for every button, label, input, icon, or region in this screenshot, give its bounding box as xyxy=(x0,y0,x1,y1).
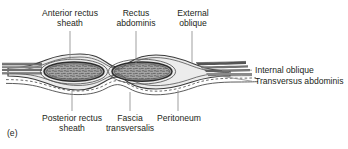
panel-id: (e) xyxy=(7,128,18,138)
label-rectus-abdominis-line2: abdominis xyxy=(106,18,166,28)
label-transversus-abdominis-line1: Transversus abdominis xyxy=(255,76,344,86)
label-peritoneum-line1: Peritoneum xyxy=(151,113,207,123)
label-transversus-abdominis: Transversus abdominis xyxy=(255,76,344,86)
label-rectus-abdominis: Rectus abdominis xyxy=(106,8,166,29)
label-internal-oblique-line1: Internal oblique xyxy=(255,65,314,75)
label-external-oblique: External oblique xyxy=(166,8,220,29)
label-fascia-transversalis-line2: transversalis xyxy=(101,123,159,133)
rectus-abdominis-left xyxy=(40,59,107,84)
label-peritoneum: Peritoneum xyxy=(151,113,207,123)
label-rectus-abdominis-line1: Rectus xyxy=(106,8,166,18)
label-external-oblique-line2: oblique xyxy=(166,18,220,28)
label-internal-oblique: Internal oblique xyxy=(255,65,314,75)
label-external-oblique-line1: External xyxy=(166,8,220,18)
rectus-abdominis-right xyxy=(108,59,175,84)
